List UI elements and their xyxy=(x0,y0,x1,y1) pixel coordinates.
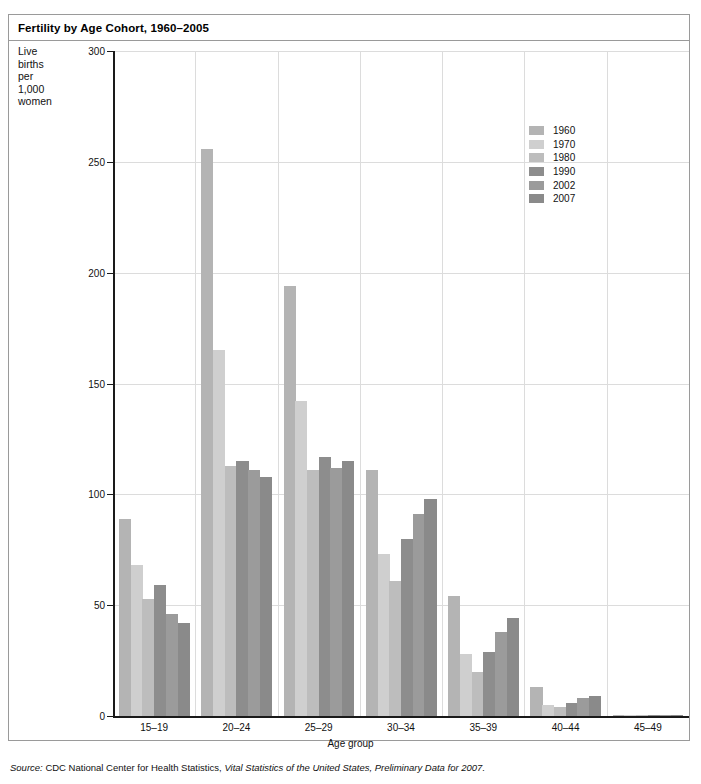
bar xyxy=(284,286,296,716)
bar xyxy=(413,514,425,716)
legend-swatch xyxy=(529,140,544,149)
source-citation: Vital Statistics of the United States, P… xyxy=(224,762,485,773)
chart-page: Fertility by Age Cohort, 1960–2005 Liveb… xyxy=(0,0,701,784)
source-note: Source: CDC National Center for Health S… xyxy=(10,762,485,773)
legend-swatch xyxy=(529,181,544,190)
x-axis-line xyxy=(113,716,689,718)
y-axis-tick-label: 0 xyxy=(45,711,105,722)
legend-swatch xyxy=(529,194,544,203)
y-caption-line: 1,000 xyxy=(18,83,64,96)
page-title: Fertility by Age Cohort, 1960–2005 xyxy=(18,22,209,34)
y-axis-tick-label: 250 xyxy=(45,156,105,167)
legend-label: 2002 xyxy=(553,180,575,191)
legend-label: 2007 xyxy=(553,193,575,204)
bar xyxy=(342,461,354,716)
y-axis-tick-label: 100 xyxy=(45,489,105,500)
bar xyxy=(295,401,307,716)
legend-item[interactable]: 1960 xyxy=(529,124,575,138)
bar xyxy=(566,703,578,716)
y-axis-tick-label: 200 xyxy=(45,267,105,278)
bar xyxy=(201,149,213,716)
y-axis-tick-label: 300 xyxy=(45,46,105,57)
bar xyxy=(142,599,154,716)
plot-area xyxy=(113,51,689,716)
bar xyxy=(260,477,272,716)
bar xyxy=(319,457,331,716)
bar xyxy=(495,632,507,716)
bar xyxy=(472,672,484,716)
y-axis-tick-mark xyxy=(107,605,113,606)
bar-group xyxy=(360,51,442,716)
y-axis-line xyxy=(113,51,115,717)
bar xyxy=(131,565,143,716)
bar xyxy=(448,596,460,716)
y-axis-tick-label: 50 xyxy=(45,600,105,611)
legend-swatch xyxy=(529,126,544,135)
bar xyxy=(166,614,178,716)
legend-swatch xyxy=(529,167,544,176)
bar xyxy=(483,652,495,716)
bar xyxy=(248,470,260,716)
legend-item[interactable]: 1990 xyxy=(529,165,575,179)
x-axis-tick-label: 45–49 xyxy=(634,722,662,733)
bar xyxy=(178,623,190,716)
bar xyxy=(507,618,519,716)
y-axis-tick-mark xyxy=(107,384,113,385)
y-caption-line: per xyxy=(18,70,64,83)
y-axis-tick-mark xyxy=(107,273,113,274)
bar-group xyxy=(195,51,277,716)
title-divider xyxy=(9,40,689,41)
x-axis-title: Age group xyxy=(0,738,701,749)
bar xyxy=(213,350,225,716)
legend: 196019701980199020022007 xyxy=(529,124,575,206)
bar-group xyxy=(607,51,689,716)
y-caption-line: women xyxy=(18,95,64,108)
x-axis-tick-label: 20–24 xyxy=(223,722,251,733)
x-axis-tick-label: 40–44 xyxy=(552,722,580,733)
y-axis-tick-mark xyxy=(107,494,113,495)
legend-label: 1970 xyxy=(553,139,575,150)
bar xyxy=(460,654,472,716)
bar xyxy=(542,705,554,716)
bar xyxy=(401,539,413,716)
legend-item[interactable]: 2007 xyxy=(529,192,575,206)
y-axis-tick-label: 150 xyxy=(45,378,105,389)
legend-swatch xyxy=(529,153,544,162)
bar xyxy=(330,468,342,716)
y-axis-tick-mark xyxy=(107,162,113,163)
bar xyxy=(554,707,566,716)
legend-label: 1960 xyxy=(553,125,575,136)
y-caption-line: births xyxy=(18,58,64,71)
x-axis-tick-label: 35–39 xyxy=(469,722,497,733)
legend-item[interactable]: 2002 xyxy=(529,178,575,192)
bar xyxy=(366,470,378,716)
bar xyxy=(589,696,601,716)
x-axis-tick-label: 25–29 xyxy=(305,722,333,733)
bar xyxy=(154,585,166,716)
source-prefix: Source: xyxy=(10,762,43,773)
bar-group xyxy=(278,51,360,716)
bar-group xyxy=(113,51,195,716)
y-axis-tick-mark xyxy=(107,51,113,52)
bar xyxy=(307,470,319,716)
y-axis-tick-mark xyxy=(107,716,113,717)
bar xyxy=(389,581,401,716)
legend-label: 1980 xyxy=(553,152,575,163)
bar xyxy=(119,519,131,716)
x-axis-tick-label: 15–19 xyxy=(140,722,168,733)
bar xyxy=(378,554,390,716)
legend-item[interactable]: 1970 xyxy=(529,138,575,152)
legend-label: 1990 xyxy=(553,166,575,177)
bar xyxy=(225,466,237,716)
bar-group xyxy=(442,51,524,716)
bar xyxy=(577,698,589,716)
legend-item[interactable]: 1980 xyxy=(529,151,575,165)
x-axis-tick-label: 30–34 xyxy=(387,722,415,733)
bar xyxy=(530,687,542,716)
source-text: CDC National Center for Health Statistic… xyxy=(43,762,225,773)
bar xyxy=(424,499,436,716)
bar xyxy=(236,461,248,716)
